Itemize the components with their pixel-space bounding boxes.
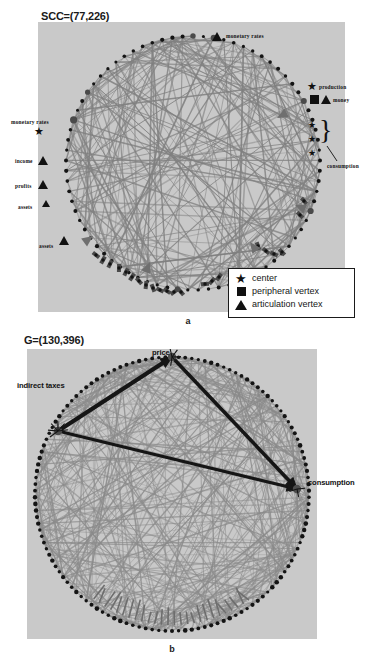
panel-b-network-graph	[0, 0, 372, 665]
figure-root: SCC=(77,226) monetary rates ★ production	[0, 0, 372, 665]
label-consumption-b: consumption	[308, 478, 355, 487]
panel-b-caption: b	[162, 644, 182, 654]
label-indirect-taxes: indirect taxes	[17, 381, 65, 390]
label-price: price	[152, 348, 170, 357]
